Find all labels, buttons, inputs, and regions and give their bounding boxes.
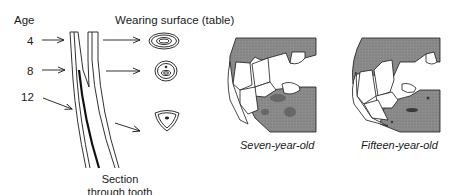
arrow-surface-12	[115, 123, 140, 131]
seven-year-old-caption: Seven-year-old	[240, 139, 314, 151]
wearing-surface-age-12-icon	[155, 111, 179, 132]
wearing-surface-age-8-icon	[155, 61, 177, 81]
age-arrows	[42, 40, 72, 109]
wearing-surface-age-4-icon	[149, 33, 179, 49]
tooth-section-icon	[70, 32, 119, 168]
tooth-section-diagram	[0, 0, 462, 195]
arrow-age-12	[43, 98, 72, 109]
seven-year-old-jaw-illustration	[228, 38, 316, 132]
fifteen-year-old-jaw-illustration	[352, 38, 440, 132]
fifteen-year-old-caption: Fifteen-year-old	[361, 139, 438, 151]
